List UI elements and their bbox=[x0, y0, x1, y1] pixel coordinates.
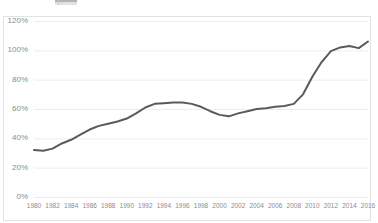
y-axis-tick-label: 40% bbox=[2, 134, 28, 142]
x-axis-tick-label: 2012 bbox=[321, 202, 341, 209]
data-series-line bbox=[34, 42, 368, 151]
y-axis-tick-label: 80% bbox=[2, 76, 28, 84]
x-axis-tick-label: 1980 bbox=[24, 202, 44, 209]
x-axis-tick-label: 1994 bbox=[154, 202, 174, 209]
x-axis-tick-label: 2016 bbox=[358, 202, 378, 209]
x-axis-tick-label: 1996 bbox=[172, 202, 192, 209]
x-axis-tick-label: 2014 bbox=[339, 202, 359, 209]
x-axis-tick-label: 2008 bbox=[284, 202, 304, 209]
x-axis-tick-label: 1990 bbox=[117, 202, 137, 209]
x-axis-tick-label: 1998 bbox=[191, 202, 211, 209]
x-axis-tick-label: 2000 bbox=[210, 202, 230, 209]
x-axis-tick-label: 2010 bbox=[302, 202, 322, 209]
y-axis-tick-label: 60% bbox=[2, 105, 28, 113]
y-axis-tick-label: 120% bbox=[2, 17, 28, 25]
x-axis-tick-label: 2004 bbox=[247, 202, 267, 209]
y-axis-tick-label: 0% bbox=[2, 193, 28, 201]
x-axis-tick-label: 2002 bbox=[228, 202, 248, 209]
x-axis-tick-label: 2006 bbox=[265, 202, 285, 209]
x-axis-tick-label: 1986 bbox=[80, 202, 100, 209]
x-axis-tick-label: 1982 bbox=[43, 202, 63, 209]
x-axis-tick-label: 1988 bbox=[98, 202, 118, 209]
x-axis-tick-label: 1992 bbox=[135, 202, 155, 209]
y-axis-tick-label: 100% bbox=[2, 46, 28, 54]
data-line-group bbox=[34, 42, 368, 151]
gridlines-group bbox=[34, 22, 368, 198]
y-axis-tick-label: 20% bbox=[2, 164, 28, 172]
x-axis-tick-label: 1984 bbox=[61, 202, 81, 209]
